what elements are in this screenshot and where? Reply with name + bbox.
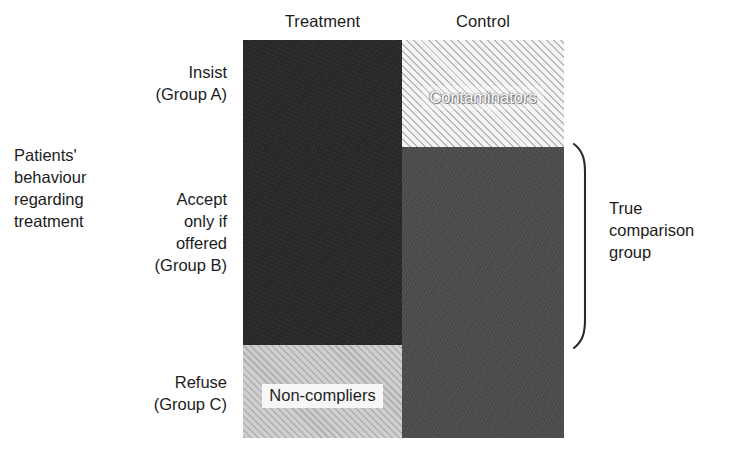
- cell-label-non-compliers: Non-compliers: [243, 384, 402, 408]
- true-comparison-group-brace-icon: [570, 142, 596, 350]
- row-label-group-c: Refuse (Group C): [37, 371, 227, 415]
- cell-label-contaminators: Contaminators: [402, 86, 564, 110]
- row-label-group-b: Accept only if offered (Group B): [37, 188, 227, 276]
- cell-control-group-b-and-c: [402, 147, 564, 438]
- cell-treatment-group-c: Non-compliers: [243, 345, 402, 438]
- column-header-control: Control: [402, 12, 564, 31]
- cell-label-contaminators-text: Contaminators: [422, 86, 543, 110]
- cell-treatment-group-b: [243, 147, 402, 345]
- row-label-group-a: Insist (Group A): [37, 61, 227, 105]
- cell-label-non-compliers-text: Non-compliers: [262, 384, 382, 408]
- matrix-grid: Non-compliers Contaminators: [243, 40, 564, 438]
- cell-treatment-group-a: [243, 40, 402, 147]
- annotation-true-comparison-group: True comparison group: [609, 197, 739, 263]
- column-header-treatment: Treatment: [243, 12, 402, 31]
- cell-control-group-a: Contaminators: [402, 40, 564, 147]
- brace-icon: [570, 142, 596, 350]
- matrix-figure: Treatment Control Patients' behaviour re…: [0, 0, 747, 464]
